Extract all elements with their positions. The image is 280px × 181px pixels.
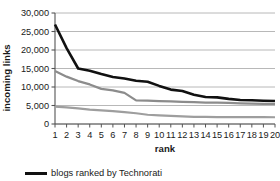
- x-tick-label: 9: [145, 130, 150, 140]
- y-tick-label: 30,000: [21, 8, 49, 18]
- y-tick-label: 20,000: [21, 45, 49, 55]
- gridlines: [55, 13, 275, 124]
- chart-legend: blogs ranked by Technorati: [0, 166, 280, 181]
- chart-figure: 05,00010,00015,00020,00025,00030,000 123…: [0, 0, 280, 181]
- series-line: [55, 24, 275, 101]
- legend-item: blogs ranked by Technorati: [0, 166, 280, 181]
- x-tick-label: 17: [235, 130, 245, 140]
- x-tick-label: 12: [177, 130, 187, 140]
- x-tick-label: 20: [270, 130, 280, 140]
- y-tick-label: 25,000: [21, 27, 49, 37]
- x-tick-label: 16: [224, 130, 234, 140]
- x-tick-label: 7: [122, 130, 127, 140]
- series-line: [55, 107, 275, 118]
- x-tick-label: 13: [189, 130, 199, 140]
- data-series-group: [55, 24, 275, 117]
- x-tick-label: 18: [247, 130, 257, 140]
- x-tick-label: 4: [87, 130, 92, 140]
- x-tick-label: 5: [99, 130, 104, 140]
- x-axis-title: rank: [155, 143, 176, 154]
- legend-line-swatch-icon: [25, 172, 47, 175]
- x-tick-label: 2: [64, 130, 69, 140]
- y-tick-label: 10,000: [21, 82, 49, 92]
- y-tick-label: 15,000: [21, 64, 49, 74]
- x-axis-tick-labels: 1234567891011121314151617181920: [52, 130, 280, 140]
- x-tick-label: 10: [154, 130, 164, 140]
- x-tick-label: 6: [110, 130, 115, 140]
- x-tick-label: 1: [52, 130, 57, 140]
- y-tick-label: 0: [44, 119, 49, 129]
- x-tick-label: 8: [133, 130, 138, 140]
- x-tick-label: 15: [212, 130, 222, 140]
- y-axis-title: incoming links: [1, 44, 12, 111]
- chart-plot-area: 05,00010,00015,00020,00025,00030,000 123…: [0, 0, 280, 160]
- y-axis-tick-labels: 05,00010,00015,00020,00025,00030,000: [21, 8, 49, 129]
- legend-item-label: blogs ranked by Technorati: [51, 168, 162, 179]
- line-chart-svg: 05,00010,00015,00020,00025,00030,000 123…: [0, 0, 280, 160]
- x-tick-label: 3: [76, 130, 81, 140]
- x-tick-label: 14: [200, 130, 210, 140]
- x-tick-label: 11: [166, 130, 176, 140]
- x-tick-label: 19: [258, 130, 268, 140]
- y-tick-label: 5,000: [26, 101, 49, 111]
